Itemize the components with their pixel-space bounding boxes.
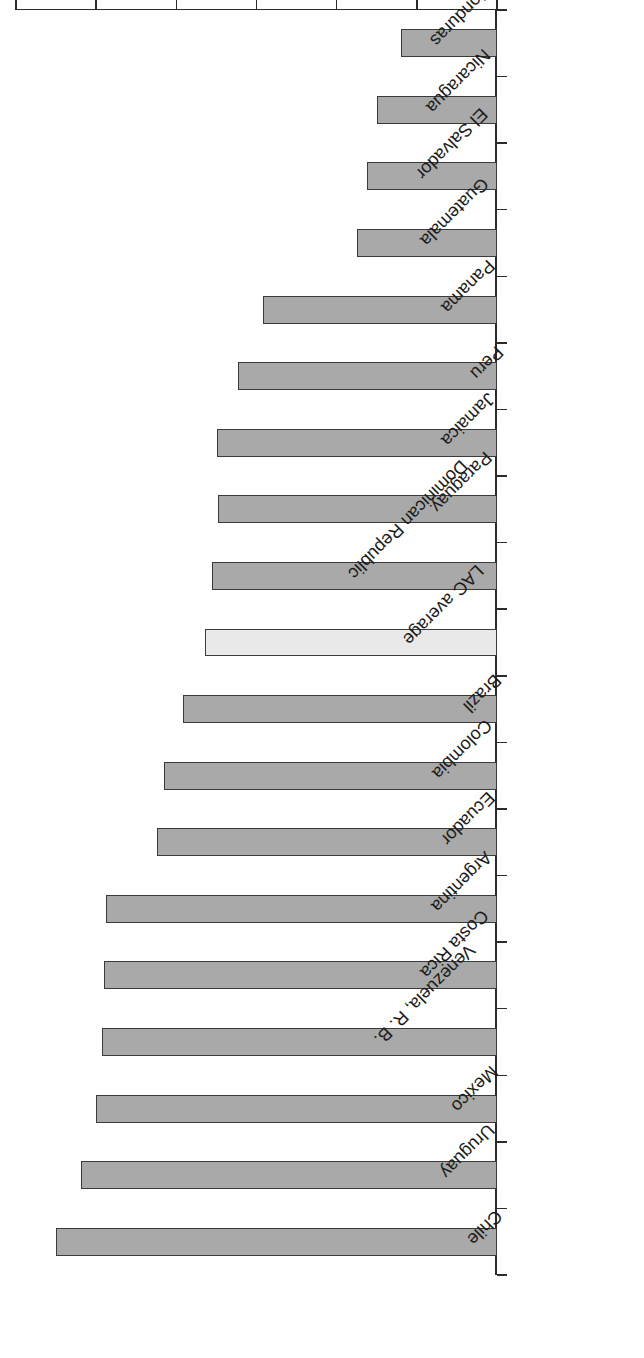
bar[interactable] (183, 695, 497, 723)
category-tick-mark (497, 409, 507, 411)
category-tick-mark (497, 742, 507, 744)
bar-row[interactable] (16, 828, 497, 856)
bar-row[interactable] (16, 1161, 497, 1189)
value-tick-mark (256, 0, 258, 10)
value-tick-mark (336, 0, 338, 10)
category-tick-mark (497, 475, 507, 477)
category-tick-mark (497, 9, 507, 11)
category-tick-mark (497, 608, 507, 610)
rotated-figure-canvas: 405060708090100 ChileUruguayMexicoVenezu… (0, 0, 644, 1358)
category-tick-mark (497, 342, 507, 344)
bar-row[interactable] (16, 296, 497, 324)
category-tick-mark (497, 1208, 507, 1210)
category-tick-mark (497, 675, 507, 677)
bar[interactable] (81, 1161, 497, 1189)
category-tick-mark (497, 875, 507, 877)
bar[interactable] (102, 1028, 497, 1056)
category-tick-mark (497, 1274, 507, 1276)
bar-row[interactable] (16, 29, 497, 57)
category-tick-mark (497, 209, 507, 211)
bar[interactable] (238, 362, 497, 390)
category-tick-mark (497, 276, 507, 278)
bar-row[interactable] (16, 562, 497, 590)
category-tick-mark (497, 941, 507, 943)
category-tick-mark (497, 542, 507, 544)
category-tick-mark (497, 142, 507, 144)
bar[interactable] (96, 1095, 497, 1123)
bar[interactable] (56, 1228, 497, 1256)
value-tick-mark (15, 0, 17, 10)
category-tick-mark (497, 76, 507, 78)
figure-root: 405060708090100 ChileUruguayMexicoVenezu… (0, 0, 644, 1358)
category-tick-mark (497, 1008, 507, 1010)
plot-area: 405060708090100 ChileUruguayMexicoVenezu… (16, 10, 497, 1275)
bar-row[interactable] (16, 695, 497, 723)
bar-row[interactable] (16, 895, 497, 923)
value-tick-mark (416, 0, 418, 10)
bar-row[interactable] (16, 1028, 497, 1056)
value-tick-mark (95, 0, 97, 10)
bar-row[interactable] (16, 362, 497, 390)
category-tick-mark (497, 808, 507, 810)
bar-row[interactable] (16, 429, 497, 457)
bar-row[interactable] (16, 1228, 497, 1256)
category-tick-mark (497, 1141, 507, 1143)
bar-row[interactable] (16, 1095, 497, 1123)
value-tick-mark (176, 0, 178, 10)
bar-row[interactable] (16, 762, 497, 790)
bar-highlight[interactable] (205, 629, 497, 657)
